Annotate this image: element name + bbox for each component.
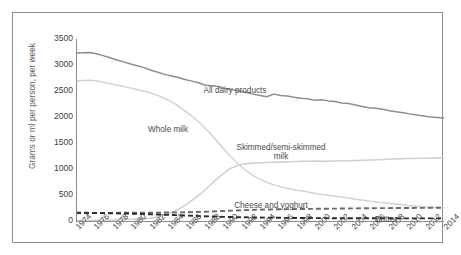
series-annotation: Whole milk <box>148 125 188 134</box>
y-axis-ticks: 3500300025002000150010005000 <box>29 13 73 244</box>
series-annotation: Skimmed/semi-skimmedmilk <box>236 143 325 162</box>
chart-frame: Grams or ml per person, per week 3500300… <box>12 12 443 243</box>
series-canvas <box>76 39 444 221</box>
y-tick-label: 2500 <box>33 86 73 95</box>
y-tick-label: 1000 <box>33 164 73 173</box>
y-tick-label: 0 <box>33 216 73 225</box>
y-tick-label: 1500 <box>33 138 73 147</box>
x-tick-label: 2014 <box>442 212 461 231</box>
x-axis-ticks: 1974197619781980198219841986198819901992… <box>76 222 444 255</box>
y-tick-label: 500 <box>33 190 73 199</box>
y-tick-label: 3000 <box>33 60 73 69</box>
y-tick-label: 2000 <box>33 112 73 121</box>
y-axis-spine <box>76 39 77 221</box>
y-tick-label: 3500 <box>33 34 73 43</box>
series-line <box>76 158 444 221</box>
series-annotation: Butter <box>375 215 397 224</box>
plot-area <box>76 39 444 221</box>
series-annotation: Cheese and yoghurt <box>234 201 308 210</box>
series-annotation: All dairy products <box>204 86 267 95</box>
